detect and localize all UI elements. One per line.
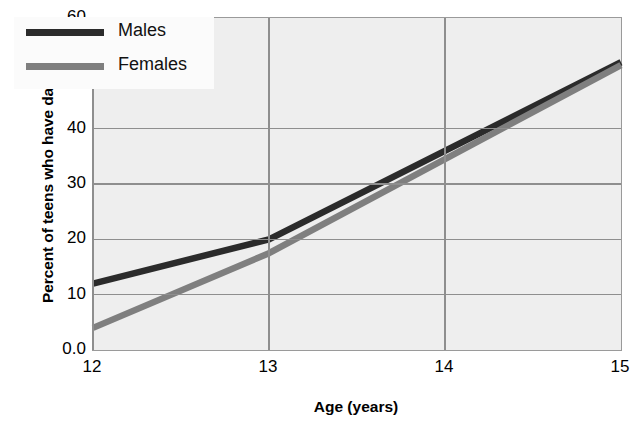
gridline-horizontal bbox=[93, 294, 621, 295]
legend-swatch-males bbox=[26, 29, 104, 36]
y-tick-label: 30 bbox=[40, 174, 86, 191]
legend-item-females: Females bbox=[14, 51, 214, 85]
gridline-horizontal bbox=[93, 128, 621, 129]
legend-label: Males bbox=[118, 20, 166, 42]
x-tick-label: 15 bbox=[590, 358, 639, 375]
legend-swatch-females bbox=[26, 63, 104, 70]
gridline-horizontal bbox=[93, 239, 621, 240]
y-tick-label: 0.0 bbox=[40, 340, 86, 357]
y-tick-label: 40 bbox=[40, 119, 86, 136]
chart-figure: Percent of teens who have dated 0.010203… bbox=[0, 0, 639, 435]
x-tick-label: 13 bbox=[238, 358, 298, 375]
x-tick-label: 12 bbox=[62, 358, 122, 375]
x-axis-tick-labels: 12131415 bbox=[0, 358, 639, 384]
y-tick-label: 20 bbox=[40, 229, 86, 246]
series-line-males bbox=[93, 62, 621, 283]
x-tick-label: 14 bbox=[414, 358, 474, 375]
legend-item-males: Males bbox=[14, 17, 214, 51]
x-axis-title: Age (years) bbox=[92, 398, 620, 416]
gridline-horizontal bbox=[93, 183, 621, 184]
y-tick-label: 10 bbox=[40, 285, 86, 302]
chart-legend: MalesFemales bbox=[14, 17, 214, 89]
legend-label: Females bbox=[118, 54, 187, 76]
